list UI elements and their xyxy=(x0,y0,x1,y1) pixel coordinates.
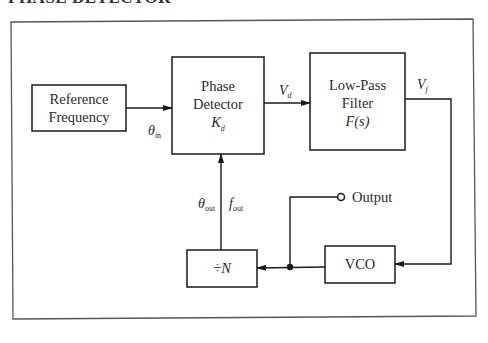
vd-label: Vd xyxy=(279,83,292,100)
pd-gain: Kd xyxy=(172,113,264,138)
reference-line2: Frequency xyxy=(32,108,126,126)
lpf-transfer: F(s) xyxy=(310,112,405,130)
junction-dot xyxy=(287,264,293,270)
vco-label: VCO xyxy=(325,255,395,273)
lpf-line1: Low-Pass xyxy=(310,76,405,94)
pd-line1: Phase xyxy=(172,77,264,95)
f-out-label: fout xyxy=(229,196,243,213)
reference-frequency-label: Reference Frequency xyxy=(32,90,126,126)
output-terminal xyxy=(338,194,345,201)
phase-detector-label: Phase Detector Kd xyxy=(172,77,264,138)
theta-out-label: θout xyxy=(198,196,215,213)
lpf-line2: Filter xyxy=(310,94,405,112)
theta-in-label: θin xyxy=(148,123,161,140)
pd-line2: Detector xyxy=(172,95,264,113)
vf-label: Vf xyxy=(417,77,428,94)
reference-line1: Reference xyxy=(32,90,126,108)
divider-label: ÷N xyxy=(187,259,257,277)
low-pass-filter-label: Low-Pass Filter F(s) xyxy=(310,76,405,130)
pll-diagram-canvas xyxy=(0,0,488,343)
output-label: Output xyxy=(352,188,392,206)
